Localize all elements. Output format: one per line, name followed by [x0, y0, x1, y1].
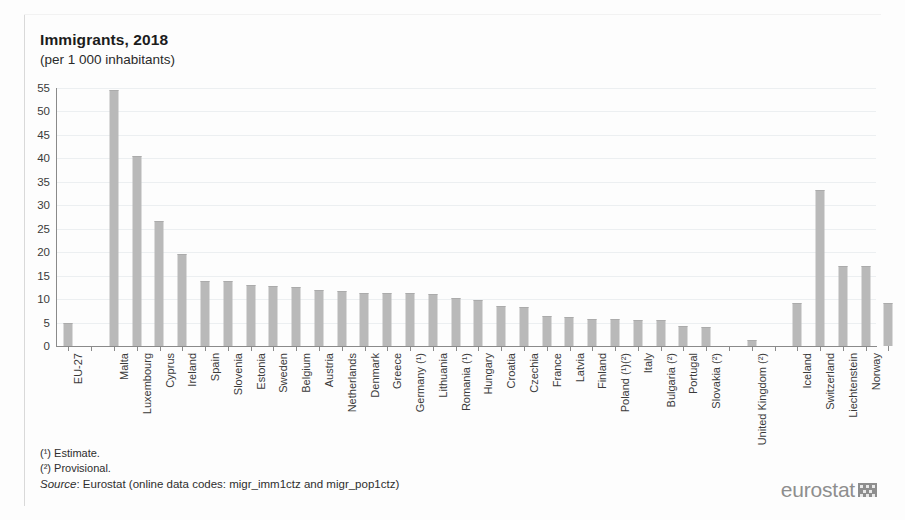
x-axis-tickmark — [319, 346, 320, 351]
bar — [451, 298, 460, 346]
bar-slot — [854, 88, 877, 346]
bar — [178, 254, 187, 346]
x-axis-tickmark — [182, 346, 183, 351]
bar — [838, 266, 847, 346]
x-axis-category-label: Poland (¹)(²) — [619, 353, 631, 412]
bar-slot — [239, 88, 262, 346]
y-axis-tick-label: 45 — [24, 129, 50, 141]
x-axis-category-label: Slovenia — [232, 353, 244, 395]
x-axis-category-label: Belgium — [300, 353, 312, 393]
bar — [383, 293, 392, 346]
source-label: Source — [40, 478, 76, 490]
x-axis-tickmark — [387, 346, 388, 351]
bar-slot — [718, 88, 741, 346]
page-frame-top-rule — [24, 14, 881, 15]
x-axis-tickmark — [820, 346, 821, 351]
bar-slot — [376, 88, 399, 346]
bar-slot — [626, 88, 649, 346]
x-axis-tickmark — [273, 346, 274, 351]
bar — [292, 287, 301, 346]
x-axis-category-label: Liechtenstein — [847, 353, 859, 418]
x-axis-category-label: Spain — [209, 353, 221, 381]
bar-slot — [194, 88, 217, 346]
x-axis-tickmark — [160, 346, 161, 351]
x-axis-tickmark — [706, 346, 707, 351]
x-axis-tickmark — [228, 346, 229, 351]
x-axis-category-label: Romania (¹) — [460, 353, 472, 411]
bar-slot — [444, 88, 467, 346]
source-note: Source: Eurostat (online data codes: mig… — [40, 478, 399, 490]
bar — [565, 317, 574, 346]
y-axis-tick-label: 15 — [24, 270, 50, 282]
x-axis-category-label: Iceland — [801, 353, 813, 388]
footnote-item: (²) Provisional. — [40, 461, 111, 476]
x-axis-tickmark — [456, 346, 457, 351]
chart-subtitle: (per 1 000 inhabitants) — [40, 51, 175, 69]
y-axis-tick-label: 30 — [24, 199, 50, 211]
x-axis-category-label: France — [551, 353, 563, 387]
bar-slot — [148, 88, 171, 346]
bar-slot — [809, 88, 832, 346]
bar-slot — [262, 88, 285, 346]
eurostat-logo-text: eurostat — [781, 478, 855, 502]
bar-slot — [353, 88, 376, 346]
footnote-item: (¹) Estimate. — [40, 446, 111, 461]
x-axis-tickmark — [478, 346, 479, 351]
x-axis-line — [56, 346, 877, 347]
x-axis-tickmark — [68, 346, 69, 351]
y-axis-tick-labels: 0510152025303540455055 — [22, 88, 50, 346]
x-axis-tickmark — [410, 346, 411, 351]
bar-slot — [80, 88, 103, 346]
x-axis-category-label: Cyprus — [164, 353, 176, 388]
x-axis-tickmark — [205, 346, 206, 351]
bar — [884, 303, 893, 346]
bar — [360, 293, 369, 346]
bar — [542, 316, 551, 346]
bar — [428, 294, 437, 346]
eurostat-flag-icon — [858, 483, 877, 497]
x-axis-tickmark — [866, 346, 867, 351]
x-axis-category-label: Czechia — [528, 353, 540, 393]
bar — [132, 156, 141, 346]
bar — [406, 293, 415, 346]
bar-slot — [467, 88, 490, 346]
bar — [611, 319, 620, 346]
y-axis-tick-label: 55 — [24, 82, 50, 94]
x-axis-tickmark — [342, 346, 343, 351]
y-axis-tick-label: 20 — [24, 246, 50, 258]
x-axis-category-label: United Kingdom (²) — [756, 353, 768, 445]
x-axis-category-label: Lithuania — [437, 353, 449, 398]
y-axis-tick-label: 40 — [24, 152, 50, 164]
x-axis-tickmark — [114, 346, 115, 351]
x-axis-category-label: Ireland — [186, 353, 198, 387]
bar — [223, 281, 232, 346]
bar-slot — [490, 88, 513, 346]
footnotes: (¹) Estimate. (²) Provisional. — [40, 446, 111, 475]
x-axis-category-label: Malta — [118, 353, 130, 380]
bar — [474, 300, 483, 346]
bar — [64, 323, 73, 346]
chart-title: Immigrants, 2018 — [40, 30, 175, 49]
bar — [314, 290, 323, 346]
x-axis-category-label: Netherlands — [346, 353, 358, 412]
bar — [793, 303, 802, 346]
bar — [497, 306, 506, 346]
x-axis-tickmark — [797, 346, 798, 351]
y-axis-tick-label: 35 — [24, 176, 50, 188]
bar — [861, 266, 870, 346]
y-axis-tick-label: 25 — [24, 223, 50, 235]
bar — [246, 285, 255, 346]
x-axis-category-label: Austria — [323, 353, 335, 387]
bar — [588, 319, 597, 346]
bar-slot — [421, 88, 444, 346]
x-axis-tickmark — [638, 346, 639, 351]
x-axis-category-labels: EU-27MaltaLuxembourgCyprusIrelandSpainSl… — [57, 353, 877, 448]
x-axis-category-label: Finland — [596, 353, 608, 389]
bar-slot — [558, 88, 581, 346]
x-axis-tickmark — [547, 346, 548, 351]
x-axis-category-label: Slovakia (²) — [710, 353, 722, 409]
bar-slot — [786, 88, 809, 346]
y-axis-tick-label: 5 — [24, 317, 50, 329]
bar-slot — [308, 88, 331, 346]
bar — [702, 327, 711, 346]
